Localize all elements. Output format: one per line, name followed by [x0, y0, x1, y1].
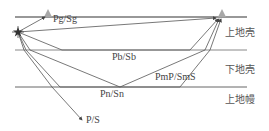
layer-lower-crust: 下地壳: [225, 65, 255, 75]
station-icon: [218, 9, 226, 17]
ray-pg-near: [18, 17, 45, 32]
label-ps: P/S: [86, 115, 100, 125]
layer-upper-mantle: 上地幔: [225, 95, 255, 105]
layer-upper-crust: 上地壳: [225, 28, 255, 38]
station-icon: [44, 9, 52, 17]
ray-pg-far: [18, 18, 216, 32]
ray-pb: [18, 19, 218, 50]
label-pn: Pn/Sn: [100, 89, 124, 99]
label-pb: Pb/Sb: [112, 52, 136, 62]
label-pmp: PmP/SmS: [155, 72, 196, 82]
source-star-icon: [12, 26, 24, 38]
label-pg: Pg/Sg: [53, 14, 77, 24]
